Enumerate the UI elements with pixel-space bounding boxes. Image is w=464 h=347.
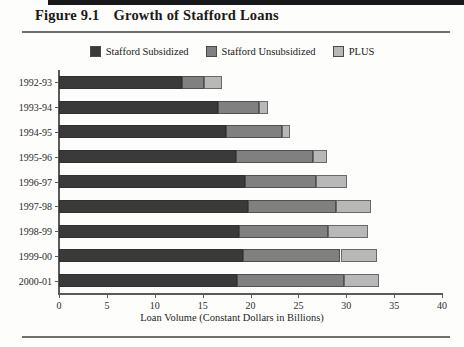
bar-segment-subsidized [59,200,248,213]
bar-row: 1998-99 [59,225,442,238]
x-axis-tick [155,293,156,298]
y-axis-tick [55,132,59,133]
figure-title-text: Growth of Stafford Loans [114,7,279,23]
x-axis-tick-label: 30 [341,300,351,311]
bar-row: 1997-98 [59,200,442,213]
legend-label: PLUS [349,46,375,57]
bar-segment-unsubsidized [237,274,344,287]
x-axis-tick-label: 25 [293,300,303,311]
y-axis-tick [55,231,59,232]
x-axis-tick [394,293,395,298]
bar-row: 1995-96 [59,150,442,163]
y-axis-category-label: 1997-98 [19,201,52,212]
bar-segment-unsubsidized [239,225,328,238]
top-black-bar [48,0,464,5]
x-axis-tick [251,293,252,298]
y-axis-tick [55,157,59,158]
bar-segment-plus [313,150,327,163]
bar-row: 1992-93 [59,76,442,89]
bar-segment-unsubsidized [218,101,259,114]
bar-segment-subsidized [59,101,218,114]
y-axis-category-label: 1998-99 [19,226,52,237]
x-axis-title: Loan Volume (Constant Dollars in Billion… [0,312,464,323]
legend-label: Stafford Subsidized [106,46,189,57]
x-axis-tick [59,293,60,298]
x-axis-tick-label: 15 [198,300,208,311]
rule-bottom-divider [22,336,450,338]
legend-swatch-icon [333,46,344,57]
figure-number: Figure 9.1 [35,7,100,23]
bar-segment-unsubsidized [236,150,313,163]
y-axis-category-label: 1993-94 [19,102,52,113]
bar-row: 1999-00 [59,249,442,262]
legend-swatch-icon [90,46,101,57]
x-axis-tick-label: 40 [437,300,447,311]
bar-segment-unsubsidized [226,125,282,138]
bar-segment-subsidized [59,125,226,138]
y-axis-category-label: 2000-01 [19,275,52,286]
y-axis-tick [55,82,59,83]
bar-segment-unsubsidized [245,175,316,188]
figure-page: Figure 9.1Growth of Stafford Loans Staff… [0,0,464,347]
y-axis-category-label: 1994-95 [19,126,52,137]
bar-segment-plus [336,200,371,213]
bar-segment-plus [282,125,290,138]
bar-segment-subsidized [59,225,239,238]
y-axis-category-label: 1996-97 [19,176,52,187]
x-axis-tick-label: 0 [57,300,62,311]
bar-segment-plus [344,274,378,287]
x-axis-tick-label: 35 [389,300,399,311]
rule-top-divider [22,31,450,33]
bar-segment-unsubsidized [248,200,336,213]
legend-swatch-icon [206,46,217,57]
y-axis-tick [55,281,59,282]
bar-segment-unsubsidized [243,249,341,262]
y-axis-tick [55,256,59,257]
bar-segment-plus [204,76,222,89]
bar-segment-subsidized [59,249,243,262]
bar-segment-subsidized [59,274,237,287]
bar-segment-subsidized [59,150,236,163]
bar-segment-plus [316,175,348,188]
legend-label: Stafford Unsubsidized [222,46,316,57]
x-axis-tick [107,293,108,298]
y-axis-tick [55,107,59,108]
x-axis-tick [203,293,204,298]
bar-segment-unsubsidized [182,76,204,89]
legend-item: Stafford Unsubsidized [206,46,316,57]
x-axis-tick [346,293,347,298]
x-axis-tick [442,293,443,298]
bar-segment-plus [341,249,377,262]
x-axis-tick-label: 20 [246,300,256,311]
y-axis-category-label: 1999-00 [19,250,52,261]
y-axis-category-label: 1995-96 [19,151,52,162]
legend-item: Stafford Subsidized [90,46,189,57]
x-axis-tick-label: 5 [104,300,109,311]
bar-row: 1994-95 [59,125,442,138]
legend-item: PLUS [333,46,375,57]
chart-legend: Stafford SubsidizedStafford Unsubsidized… [0,46,464,57]
chart-plot-area: 05101520253035401992-931993-941994-95199… [59,70,442,293]
bar-row: 1996-97 [59,175,442,188]
x-axis-tick [298,293,299,298]
y-axis-tick [55,182,59,183]
bar-segment-plus [328,225,368,238]
y-axis-tick [55,206,59,207]
bar-segment-subsidized [59,76,182,89]
y-axis-category-label: 1992-93 [19,77,52,88]
bar-row: 2000-01 [59,274,442,287]
page-title: Figure 9.1Growth of Stafford Loans [35,7,279,24]
bar-row: 1993-94 [59,101,442,114]
x-axis-tick-label: 10 [150,300,160,311]
bar-segment-plus [259,101,268,114]
bar-segment-subsidized [59,175,245,188]
